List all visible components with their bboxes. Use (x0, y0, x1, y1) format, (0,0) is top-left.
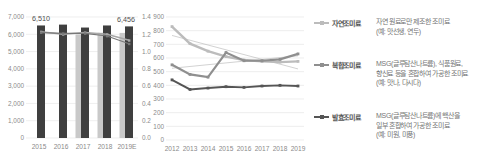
y-left-tick-label: 6,000 (8, 31, 24, 38)
bar (81, 28, 89, 138)
line-marker (225, 51, 228, 54)
line-marker (261, 85, 264, 88)
line-marker (207, 87, 210, 90)
x-tick-label: 2015 (32, 143, 47, 150)
legend-item-name: 발효조미료 (332, 112, 361, 122)
line-marker (171, 78, 174, 81)
bar (37, 25, 45, 138)
line-series-marker-icon (314, 22, 329, 24)
y-left-tick-label: 7,000 (8, 13, 24, 20)
x-tick-label: 2013 (183, 145, 198, 152)
legend-key: 자연조미료 (314, 18, 376, 28)
line-marker (189, 73, 192, 76)
y-tick-label: 800 (153, 27, 164, 34)
y-tick-label: 0 (160, 136, 164, 143)
y-left-tick-label: 1,000 (8, 117, 24, 124)
x-tick-label: 2012 (165, 145, 180, 152)
y-tick-label: 400 (153, 82, 164, 89)
line-marker (171, 63, 174, 66)
line-marker (297, 85, 300, 88)
x-tick-label: 2019E (117, 143, 137, 150)
y-left-tick-label: 4,000 (8, 65, 24, 72)
seasoning-market-figure: 01,0002,0003,0004,0005,0006,0007,0000.00… (0, 0, 488, 167)
legend-item: 복합조미료 MSG(글루탐산나트륨), 식품원료, 향신료 등을 혼합하여 가공… (314, 59, 468, 88)
x-tick-label: 2014 (201, 145, 216, 152)
y-tick-label: 600 (153, 54, 164, 61)
line-marker (243, 86, 246, 89)
line-marker (62, 32, 64, 34)
line-marker (225, 85, 228, 88)
line-marker (128, 39, 130, 41)
y-tick-label: 100 (153, 123, 164, 130)
y-left-tick-label: 2,000 (8, 100, 24, 107)
legend-item-desc: MSG(글루탐산나트륨)에 핵산을 일부 혼합하여 가공한 조미료 (예: 미원… (376, 111, 459, 140)
bar (103, 25, 111, 138)
legend-item-desc: 자연 원료로만 제조한 조미료 (예: 맛선생, 연두) (376, 17, 449, 36)
line-marker (207, 76, 210, 79)
legend-item-name: 자연조미료 (332, 18, 361, 28)
legend-item: 자연조미료 자연 원료로만 제조한 조미료 (예: 맛선생, 연두) (314, 17, 449, 36)
legend-item: 발효조미료 MSG(글루탐산나트륨)에 핵산을 일부 혼합하여 가공한 조미료 … (314, 111, 459, 140)
x-tick-label: 2019 (291, 145, 306, 152)
y-tick-label: 500 (153, 68, 164, 75)
x-tick-label: 2017 (255, 145, 270, 152)
bar (59, 25, 67, 138)
legend-key: 발효조미료 (314, 112, 376, 122)
line-series-marker-icon (314, 116, 329, 118)
y-left-tick-label: 5,000 (8, 48, 24, 55)
legend-item-name: 복합조미료 (332, 60, 361, 70)
line-marker (106, 35, 108, 37)
line-marker (279, 84, 282, 87)
line-marker (297, 53, 300, 56)
line-marker (297, 60, 300, 63)
market-size-bar-chart: 01,0002,0003,0004,0005,0006,0007,0000.00… (0, 0, 162, 167)
line-marker (207, 50, 210, 53)
line-marker (189, 42, 192, 45)
line-marker (261, 59, 264, 62)
line-marker (171, 25, 174, 28)
y-tick-label: 900 (153, 13, 164, 20)
x-tick-label: 2015 (219, 145, 234, 152)
x-tick-label: 2016 (237, 145, 252, 152)
bar-value-label: 6,510 (32, 14, 50, 23)
line-marker (189, 88, 192, 91)
line-marker (84, 32, 86, 34)
legend-item-desc: MSG(글루탐산나트륨), 식품원료, 향신료 등을 혼합하여 가공한 조미료 … (376, 59, 468, 88)
x-tick-label: 2017 (76, 143, 91, 150)
legend-key: 복합조미료 (314, 60, 376, 70)
line-marker (40, 32, 42, 34)
bar-value-label: 6,456 (117, 15, 135, 24)
x-tick-label: 2018 (98, 143, 113, 150)
line-marker (243, 59, 246, 62)
y-tick-label: 300 (153, 95, 164, 102)
legend-panel: 자연조미료 자연 원료로만 제조한 조미료 (예: 맛선생, 연두) 복합조미료… (308, 0, 488, 167)
series-trend-down (172, 35, 298, 68)
x-tick-label: 2016 (54, 143, 69, 150)
segment-trend-line-chart: 0100200300400500600700800900201220132014… (146, 0, 314, 167)
line-marker (128, 43, 130, 45)
y-tick-label: 700 (153, 41, 164, 48)
line-marker (279, 61, 282, 64)
y-left-tick-label: 3,000 (8, 82, 24, 89)
x-tick-label: 2018 (273, 145, 288, 152)
y-left-tick-label: 0 (20, 134, 24, 141)
y-tick-label: 200 (153, 109, 164, 116)
line-marker (279, 58, 282, 61)
line-series-marker-icon (314, 64, 329, 66)
